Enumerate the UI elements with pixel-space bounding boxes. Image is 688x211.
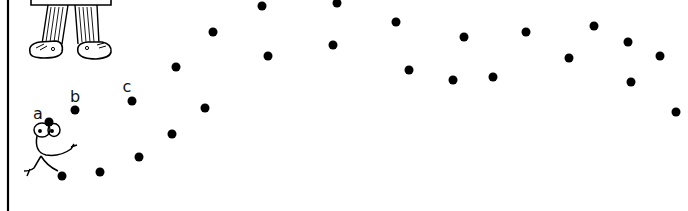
- puzzle-dot: [656, 52, 665, 61]
- label-c: c: [123, 79, 132, 95]
- illustration: [0, 0, 688, 211]
- connect-the-dots-puzzle: a b c: [0, 0, 688, 211]
- puzzle-dot: [460, 33, 469, 42]
- puzzle-dot: [71, 106, 80, 115]
- puzzle-dot: [392, 18, 401, 27]
- label-a: a: [33, 106, 43, 122]
- puzzle-dot: [135, 153, 144, 162]
- puzzle-dot: [627, 78, 636, 87]
- puzzle-dot: [624, 38, 633, 47]
- puzzle-dot: [329, 41, 338, 50]
- puzzle-dot: [489, 73, 498, 82]
- puzzle-dot: [565, 54, 574, 63]
- puzzle-dot: [58, 172, 67, 181]
- puzzle-dot: [449, 76, 458, 85]
- puzzle-dot: [405, 66, 414, 75]
- puzzle-dot: [522, 28, 531, 37]
- puzzle-dot: [128, 97, 137, 106]
- puzzle-dot: [168, 130, 177, 139]
- puzzle-dot: [96, 168, 105, 177]
- puzzle-dot: [45, 118, 54, 127]
- puzzle-dot: [264, 52, 273, 61]
- figure-legs-icon: [30, 0, 111, 59]
- puzzle-dot: [172, 63, 181, 72]
- puzzle-dot: [590, 22, 599, 31]
- puzzle-dot: [209, 28, 218, 37]
- puzzle-dot: [201, 104, 210, 113]
- label-b: b: [70, 89, 80, 105]
- puzzle-dot: [258, 2, 267, 11]
- creature-drawing-icon: [24, 123, 77, 176]
- puzzle-dot: [672, 108, 681, 117]
